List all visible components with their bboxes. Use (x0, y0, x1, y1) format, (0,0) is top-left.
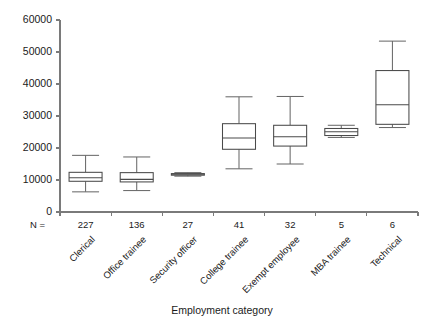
iqr-box (274, 125, 307, 146)
y-tick-label: 10000 (23, 173, 52, 185)
n-value-label: 136 (129, 219, 145, 230)
category-label: MBA trainee (308, 234, 352, 278)
category-label: Exempt employee (240, 234, 302, 296)
box-plot-item (171, 173, 204, 177)
y-tick-label: 40000 (23, 77, 52, 89)
x-axis-title: Employment category (171, 304, 273, 316)
box-plot-item (69, 155, 102, 191)
n-value-label: 32 (285, 219, 296, 230)
boxplot-canvas: 0100002000030000400005000060000 N =22713… (0, 0, 425, 329)
y-tick-label: 30000 (23, 109, 52, 121)
iqr-box (120, 173, 153, 182)
category-label: Security officer (147, 234, 199, 286)
y-tick-label: 50000 (23, 45, 52, 57)
category-label: Technical (368, 234, 404, 270)
n-value-label: 5 (339, 219, 344, 230)
category-label: Clerical (67, 234, 97, 264)
box-plot-item (274, 96, 307, 164)
y-axis: 0100002000030000400005000060000 (23, 13, 60, 217)
category-labels: ClericalOffice traineeSecurity officerCo… (67, 234, 404, 296)
n-value-label: 27 (183, 219, 194, 230)
y-tick-label: 0 (46, 205, 52, 217)
box-plot-item (376, 41, 409, 127)
n-prefix-label: N = (30, 219, 46, 230)
iqr-box (223, 124, 256, 150)
iqr-box (69, 172, 102, 181)
box-series (69, 41, 409, 192)
n-row: N =22713627413256 (30, 219, 395, 230)
y-tick-label: 60000 (23, 13, 52, 25)
n-value-label: 6 (390, 219, 395, 230)
category-label: College trainee (197, 234, 250, 287)
n-value-label: 41 (234, 219, 245, 230)
boxplot-chart: 0100002000030000400005000060000 N =22713… (0, 0, 425, 329)
category-label: Office trainee (101, 234, 149, 282)
box-plot-item (325, 125, 358, 137)
x-axis (60, 212, 418, 216)
box-plot-item (223, 97, 256, 169)
y-tick-label: 20000 (23, 141, 52, 153)
iqr-box (376, 71, 409, 125)
box-plot-item (120, 157, 153, 191)
n-value-label: 227 (78, 219, 94, 230)
